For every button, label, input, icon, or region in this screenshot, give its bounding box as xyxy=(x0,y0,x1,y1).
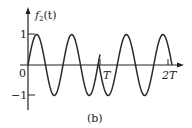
figure-caption: (b) xyxy=(87,112,103,125)
x-axis-arrow-icon xyxy=(177,63,184,68)
y-axis-arrow-icon xyxy=(26,7,31,14)
x-tick-label-0: 0 xyxy=(19,67,26,80)
y-tick-label-1: 1 xyxy=(20,28,27,41)
x-tick-label-T: T xyxy=(103,69,112,82)
y-tick-label-neg1: −1 xyxy=(11,89,27,102)
waveform-chart: f2(t) 1 −1 0 T 2T (b) xyxy=(0,0,192,128)
y-axis-label: f2(t) xyxy=(34,9,57,23)
x-tick-label-2T: 2T xyxy=(161,69,178,82)
